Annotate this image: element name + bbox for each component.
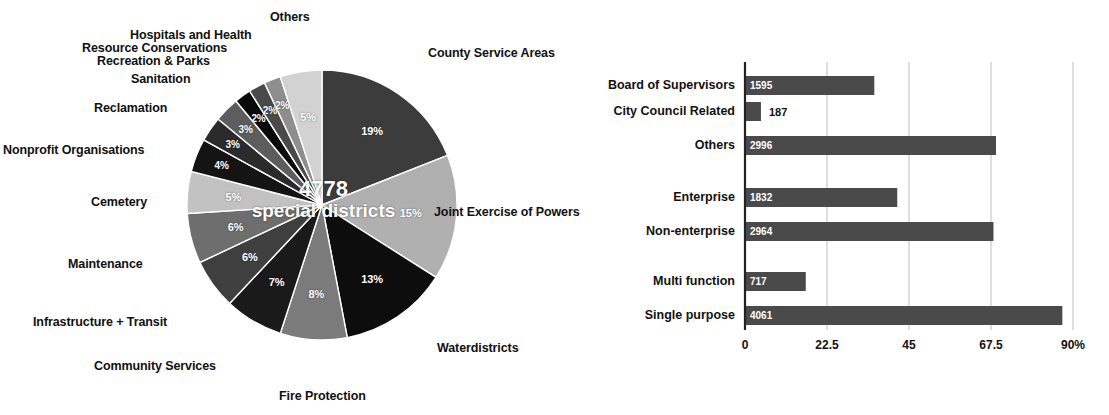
bar-axis-tick-label: 0: [720, 338, 770, 352]
bar: [746, 306, 1062, 325]
pie-slice-percent: 19%: [358, 124, 386, 139]
bar-category-label: Non-enterprise: [600, 224, 735, 239]
pie-category-label: Sanitation: [131, 72, 190, 87]
pie-slice-percent: 6%: [222, 220, 250, 235]
pie-slice-percent: 2%: [268, 98, 296, 113]
pie-category-label: Community Services: [94, 359, 216, 374]
bar-value-label: 4061: [750, 310, 772, 322]
bar-value-label: 2964: [750, 226, 772, 238]
bar-category-label: Single purpose: [600, 308, 735, 323]
pie-slice-percent: 5%: [219, 190, 247, 205]
pie-slice-percent: 15%: [397, 206, 425, 221]
bar-value-label: 187: [769, 106, 787, 118]
bar-category-label: Board of Supervisors: [600, 78, 735, 93]
pie-category-label: Waterdistricts: [437, 341, 519, 356]
bar-axis-tick-label: 67.5: [966, 338, 1016, 352]
pie-category-label: Reclamation: [94, 101, 167, 116]
bar: [746, 136, 996, 155]
bar-value-label: 717: [750, 276, 767, 288]
pie-category-label: County Service Areas: [428, 46, 555, 61]
pie-category-label: Cemetery: [91, 195, 147, 210]
bar-axis-tick-label: 90%: [1048, 338, 1098, 352]
bar-axis-tick-label: 22.5: [802, 338, 852, 352]
pie-category-label: Fire Protection: [279, 389, 366, 404]
bar-axis-tick-label: 45: [884, 338, 934, 352]
bar-category-label: Multi function: [600, 274, 735, 289]
bar: [746, 102, 761, 121]
pie-category-label: Maintenance: [68, 257, 143, 272]
bar-chart-svg: [600, 0, 1109, 415]
bar-category-label: City Council Related: [600, 104, 735, 119]
bar-category-label: Others: [600, 138, 735, 153]
pie-slice-percent: 4%: [208, 158, 236, 173]
pie-category-label: Nonprofit Organisations: [3, 143, 144, 158]
pie-slice-percent: 6%: [236, 250, 264, 265]
bar-chart-panel: 1595Board of Supervisors187City Council …: [600, 0, 1109, 415]
pie-category-label: Others: [270, 10, 310, 25]
pie-category-label: Infrastructure + Transit: [33, 315, 167, 330]
pie-slice-percent: 8%: [302, 287, 330, 302]
pie-slice-percent: 7%: [263, 275, 291, 290]
figure-root: 19%15%13%8%7%6%6%5%4%3%3%2%2%2%5%OthersH…: [0, 0, 1109, 415]
pie-chart-panel: 19%15%13%8%7%6%6%5%4%3%3%2%2%2%5%OthersH…: [0, 0, 600, 415]
bar-value-label: 2996: [750, 140, 772, 152]
pie-slice-percent: 5%: [294, 110, 322, 125]
bar-value-label: 1595: [750, 80, 772, 92]
bar: [746, 222, 993, 241]
pie-slice-percent: 13%: [358, 272, 386, 287]
pie-slice-percent: 3%: [219, 137, 247, 152]
pie-category-label: Recreation & Parks: [97, 54, 210, 69]
bar-value-label: 1832: [750, 192, 772, 204]
bar-category-label: Enterprise: [600, 190, 735, 205]
pie-category-label: Joint Exercise of Powers: [434, 205, 580, 220]
